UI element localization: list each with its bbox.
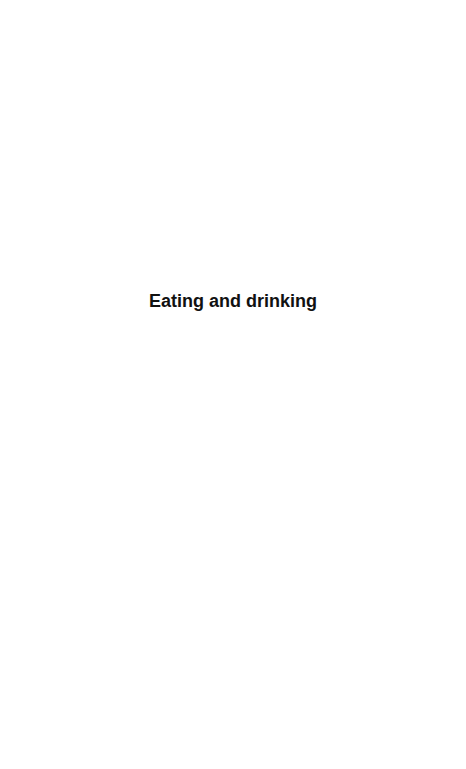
document-page: Eating and drinking	[0, 0, 466, 769]
page-title: Eating and drinking	[0, 290, 466, 312]
